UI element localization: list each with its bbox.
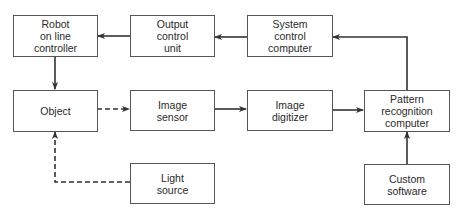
node-custom-software: Custom software: [364, 164, 450, 205]
arrow-light-to-object: [55, 132, 130, 182]
node-label: Image sensor: [157, 99, 189, 123]
node-image-digitizer: Image digitizer: [247, 90, 333, 131]
node-label: System control computer: [268, 18, 312, 54]
node-image-sensor: Image sensor: [130, 90, 215, 131]
node-label: Object: [40, 105, 70, 117]
node-robot-controller: Robot on line controller: [13, 15, 98, 57]
node-label: Image digitizer: [272, 99, 308, 123]
node-light-source: Light source: [130, 163, 215, 204]
node-label: Robot on line controller: [34, 18, 77, 54]
node-system-control-computer: System control computer: [247, 15, 333, 57]
node-label: Output control unit: [157, 18, 189, 54]
node-label: Light source: [157, 172, 189, 196]
node-object: Object: [13, 90, 98, 132]
node-label: Pattern recognition computer: [381, 93, 432, 129]
node-output-control-unit: Output control unit: [130, 15, 215, 57]
node-label: Custom software: [387, 173, 427, 197]
node-pattern-recognition-computer: Pattern recognition computer: [364, 90, 450, 132]
arrow-pattern-to-system: [333, 37, 407, 90]
